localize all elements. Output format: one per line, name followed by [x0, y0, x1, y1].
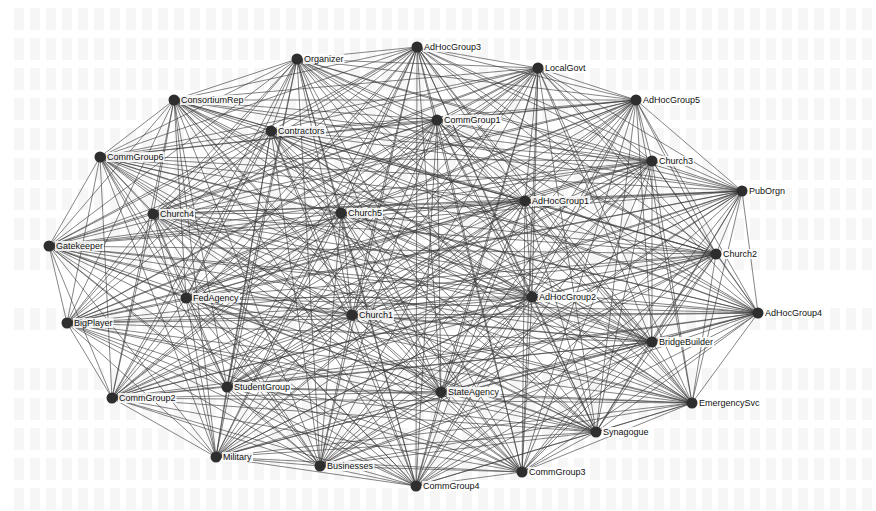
- node-circle[interactable]: [222, 382, 233, 393]
- node-circle[interactable]: [711, 249, 722, 260]
- edge: [216, 392, 441, 457]
- node-label: BridgeBuilder: [659, 337, 713, 347]
- graph-node[interactable]: Church4: [148, 209, 196, 220]
- node-label: StudentGroup: [234, 382, 290, 392]
- node-label: Church2: [723, 249, 757, 259]
- edge-layer: [49, 47, 758, 486]
- graph-node[interactable]: Contractors: [266, 126, 327, 137]
- node-label: CommGroup6: [107, 152, 164, 162]
- edge: [636, 100, 716, 254]
- node-circle[interactable]: [95, 152, 106, 163]
- edge: [437, 120, 758, 313]
- edge: [271, 131, 652, 342]
- node-circle[interactable]: [436, 387, 447, 398]
- edge: [522, 432, 596, 472]
- node-circle[interactable]: [647, 156, 658, 167]
- graph-node[interactable]: Businesses: [315, 461, 375, 472]
- node-circle[interactable]: [169, 95, 180, 106]
- node-circle[interactable]: [411, 481, 422, 492]
- graph-node[interactable]: BigPlayer: [62, 318, 114, 329]
- node-label: AdHocGroup1: [532, 196, 589, 206]
- graph-node[interactable]: Church3: [647, 156, 695, 167]
- edge: [100, 100, 174, 157]
- node-label: AdHocGroup3: [424, 42, 481, 52]
- node-circle[interactable]: [44, 241, 55, 252]
- node-circle[interactable]: [292, 54, 303, 65]
- node-label: CommGroup2: [119, 393, 176, 403]
- graph-node[interactable]: AdHocGroup4: [753, 308, 824, 319]
- node-circle[interactable]: [148, 209, 159, 220]
- node-label: Businesses: [327, 461, 374, 471]
- node-label: FedAgency: [193, 293, 239, 303]
- edge: [636, 100, 758, 313]
- node-label: AdHocGroup4: [765, 308, 822, 318]
- node-label: ConsortiumRep: [181, 95, 244, 105]
- edge: [174, 59, 297, 100]
- node-label: PubOrgn: [749, 186, 785, 196]
- network-graph: OrganizerAdHocGroup3LocalGovtConsortiumR…: [0, 0, 876, 511]
- node-circle[interactable]: [336, 208, 347, 219]
- edge: [112, 398, 216, 457]
- node-label: CommGroup1: [444, 115, 501, 125]
- graph-node[interactable]: Church2: [711, 249, 759, 260]
- graph-node[interactable]: Gatekeeper: [44, 241, 105, 252]
- node-circle[interactable]: [520, 196, 531, 207]
- graph-node[interactable]: Military: [211, 452, 253, 463]
- node-label: Church1: [359, 310, 393, 320]
- edge: [112, 398, 692, 403]
- edge: [153, 214, 320, 466]
- node-label: CommGroup3: [529, 467, 586, 477]
- graph-node[interactable]: Church1: [347, 310, 395, 321]
- node-circle[interactable]: [211, 452, 222, 463]
- edge: [692, 313, 758, 403]
- edge: [49, 120, 437, 246]
- node-circle[interactable]: [631, 95, 642, 106]
- node-circle[interactable]: [107, 393, 118, 404]
- node-label: Organizer: [304, 54, 344, 64]
- node-label: Military: [223, 452, 252, 462]
- node-label: Church4: [160, 209, 194, 219]
- graph-node[interactable]: LocalGovt: [533, 63, 588, 74]
- node-label: CommGroup4: [423, 481, 480, 491]
- node-circle[interactable]: [347, 310, 358, 321]
- edge: [522, 342, 652, 472]
- node-circle[interactable]: [647, 337, 658, 348]
- node-circle[interactable]: [412, 42, 423, 53]
- edge: [416, 392, 441, 486]
- node-circle[interactable]: [517, 467, 528, 478]
- node-label: AdHocGroup2: [539, 292, 596, 302]
- node-circle[interactable]: [591, 427, 602, 438]
- graph-node[interactable]: EmergencySvc: [687, 398, 762, 409]
- node-circle[interactable]: [737, 186, 748, 197]
- edge: [174, 100, 441, 392]
- edge: [67, 323, 112, 398]
- graph-node[interactable]: PubOrgn: [737, 186, 787, 197]
- edge: [320, 392, 441, 466]
- edge: [297, 59, 652, 161]
- node-circle[interactable]: [266, 126, 277, 137]
- node-label: AdHocGroup5: [643, 95, 700, 105]
- edge: [112, 398, 416, 486]
- node-label: BigPlayer: [74, 318, 113, 328]
- graph-node[interactable]: Synagogue: [591, 427, 650, 438]
- graph-node[interactable]: FedAgency: [181, 293, 241, 304]
- node-circle[interactable]: [687, 398, 698, 409]
- node-circle[interactable]: [527, 292, 538, 303]
- node-circle[interactable]: [533, 63, 544, 74]
- graph-node[interactable]: Church5: [336, 208, 384, 219]
- edge: [437, 120, 652, 161]
- node-label: LocalGovt: [545, 63, 586, 73]
- node-label: Synagogue: [603, 427, 649, 437]
- edge: [227, 313, 758, 387]
- edge: [227, 315, 352, 387]
- node-circle[interactable]: [432, 115, 443, 126]
- node-circle[interactable]: [753, 308, 764, 319]
- node-circle[interactable]: [181, 293, 192, 304]
- graph-node[interactable]: Organizer: [292, 54, 345, 65]
- node-circle[interactable]: [62, 318, 73, 329]
- node-label: EmergencySvc: [699, 398, 760, 408]
- graph-node[interactable]: AdHocGroup2: [527, 292, 598, 303]
- node-label: Contractors: [278, 126, 325, 136]
- node-label: Church5: [348, 208, 382, 218]
- node-circle[interactable]: [315, 461, 326, 472]
